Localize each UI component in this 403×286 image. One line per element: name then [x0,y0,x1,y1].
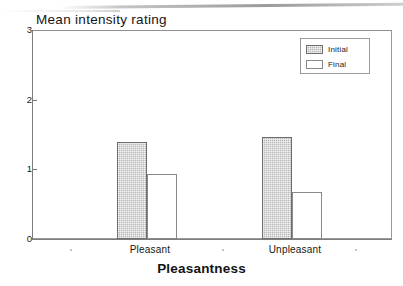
legend-swatch-initial-icon [306,45,323,54]
legend-swatch-final-icon [306,60,323,69]
y-tick-text: 0 [10,234,32,244]
chart-title: Mean intensity rating [36,12,167,27]
bar-unpleasant-final [292,192,322,239]
y-tick-mark [32,169,37,170]
bar-unpleasant-initial [262,137,292,239]
bar-pleasant-initial [117,142,147,239]
legend-label-final: Final [328,61,346,69]
x-minor-tick-dot-2 [355,249,357,251]
y-tick-mark [32,100,37,101]
chart-legend: Initial Final [300,38,370,74]
x-axis-title: Pleasantness [0,261,403,276]
y-tick-text: 1 [10,164,32,174]
y-tick-text: 2 [10,95,32,105]
legend-item-initial: Initial [306,43,348,56]
x-minor-tick-dot-1 [222,249,224,251]
x-minor-tick-dot-0 [70,249,72,251]
x-axis-line [32,239,392,240]
x-category-label-pleasant: Pleasant [90,244,210,255]
x-category-label-unpleasant: Unpleasant [235,244,355,255]
legend-label-initial: Initial [328,46,348,54]
y-tick-label-1: 1 [0,164,32,174]
bar-chart-figure: Mean intensity rating 0123 PleasantUnple… [0,0,403,286]
bar-pleasant-final [147,174,177,239]
legend-item-final: Final [306,58,346,71]
y-axis-line [32,30,33,240]
y-tick-label-2: 2 [0,95,32,105]
y-tick-text: 3 [10,25,32,35]
y-tick-label-0: 0 [0,234,32,244]
scan-artifact-line [60,3,403,9]
y-tick-label-3: 3 [0,25,32,35]
